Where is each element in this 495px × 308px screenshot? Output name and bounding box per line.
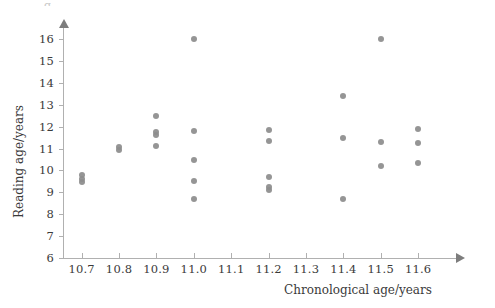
data-points-layer [0, 0, 495, 308]
data-point [266, 127, 272, 133]
data-point [116, 147, 122, 153]
data-point [378, 139, 384, 145]
data-point [266, 138, 272, 144]
data-point [266, 174, 272, 180]
data-point [266, 187, 272, 193]
data-point [191, 128, 197, 134]
data-point [340, 135, 346, 141]
data-point [415, 160, 421, 166]
data-point [378, 163, 384, 169]
data-point [191, 36, 197, 42]
data-point [79, 179, 85, 185]
data-point [340, 196, 346, 202]
data-point [415, 126, 421, 132]
scatter-plot-figure: g 10.710.810.911.011.111.211.311.411.511… [0, 0, 495, 308]
data-point [191, 178, 197, 184]
data-point [153, 143, 159, 149]
data-point [415, 140, 421, 146]
data-point [340, 93, 346, 99]
data-point [191, 196, 197, 202]
data-point [153, 132, 159, 138]
data-point [153, 113, 159, 119]
data-point [378, 36, 384, 42]
data-point [191, 157, 197, 163]
